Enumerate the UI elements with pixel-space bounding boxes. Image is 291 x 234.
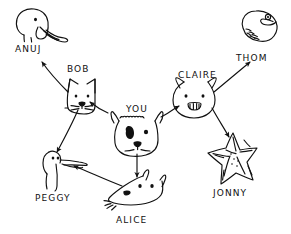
node-label-claire: CLAIRE — [178, 70, 217, 80]
node-label-peggy: PEGGY — [35, 193, 71, 203]
node-label-jonny: JONNY — [213, 188, 247, 198]
node-icon-anuj — [16, 9, 67, 42]
edge-alice-to-peggy — [74, 166, 122, 186]
node-label-alice: ALICE — [116, 215, 147, 225]
edge-claire-to-jonny — [212, 108, 229, 137]
node-icon-thom — [242, 11, 277, 41]
node-label-bob: BOB — [67, 64, 90, 74]
diagram-canvas: ANUJ BOB YOU CLAIRE THOM PEGGY ALICE JON… — [0, 0, 291, 234]
edge-you-to-claire — [161, 106, 179, 117]
node-icon-peggy — [43, 151, 87, 191]
node-icon-claire — [173, 78, 216, 118]
node-icon-bob — [65, 79, 95, 114]
node-icon-you — [111, 112, 163, 157]
node-label-anuj: ANUJ — [15, 44, 42, 54]
edge-claire-to-thom — [214, 62, 250, 92]
node-icon-alice — [104, 170, 166, 210]
edge-bob-to-peggy — [57, 110, 78, 152]
edge-bob-to-anuj — [42, 62, 68, 92]
node-label-thom: THOM — [236, 53, 268, 63]
node-icon-jonny — [208, 133, 257, 184]
node-label-you: YOU — [126, 104, 148, 114]
